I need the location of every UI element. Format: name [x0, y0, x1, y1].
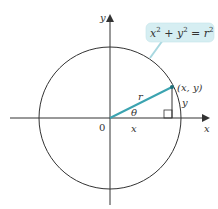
angle-label: θ [131, 107, 137, 118]
y-leg-label: y [181, 97, 188, 108]
diagram-canvas: x2 + y2 = r2 y x 0 r θ x y (x, y) [0, 0, 218, 209]
point-marker [170, 85, 174, 89]
x-axis-label: x [204, 123, 210, 134]
point-label: (x, y) [177, 82, 203, 93]
x-leg-label: x [131, 123, 137, 134]
callout-leader [150, 40, 163, 58]
y-axis-label: y [99, 12, 106, 23]
right-angle-marker [164, 110, 172, 118]
origin-label: 0 [99, 122, 105, 133]
